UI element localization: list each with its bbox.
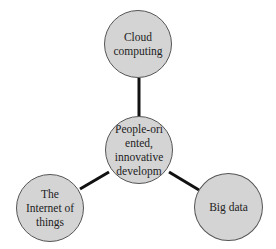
node-label-line: People-ori: [113, 122, 166, 136]
node-label-line: innovative: [113, 150, 166, 164]
node-center-people-oriented: People-ori ented, innovative developm: [105, 116, 173, 184]
edge-center-bigdata: [169, 172, 199, 190]
node-cloud-computing: Cloud computing: [104, 10, 172, 78]
node-label-line: things: [24, 215, 76, 229]
node-label-line: ented,: [113, 136, 166, 150]
node-label-line: developm: [113, 164, 166, 178]
node-big-data: Big data: [194, 173, 263, 241]
node-label-line: computing: [111, 44, 164, 58]
node-internet-of-things: The Internet of things: [16, 174, 84, 242]
node-label-line: Cloud: [111, 30, 164, 44]
node-label-line: Internet of: [24, 201, 76, 215]
node-label-line: Big data: [207, 200, 250, 214]
edge-center-iot: [80, 172, 109, 189]
node-label-line: The: [24, 187, 76, 201]
